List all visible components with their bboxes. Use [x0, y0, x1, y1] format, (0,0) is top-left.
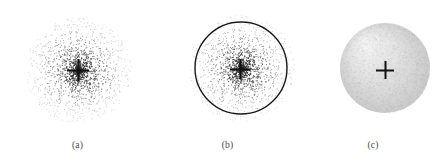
caption-c: (c): [300, 140, 446, 150]
panel-c: (c): [300, 0, 446, 164]
panel-a: (a): [0, 0, 155, 164]
scatter-plot-b: [155, 0, 300, 140]
figure-container: (a) (b) (c): [0, 0, 446, 164]
disk-plot-c: [300, 0, 446, 140]
caption-b: (b): [155, 140, 300, 150]
scatter-plot-a: [0, 0, 155, 140]
caption-a: (a): [0, 140, 155, 150]
panel-b: (b): [155, 0, 300, 164]
